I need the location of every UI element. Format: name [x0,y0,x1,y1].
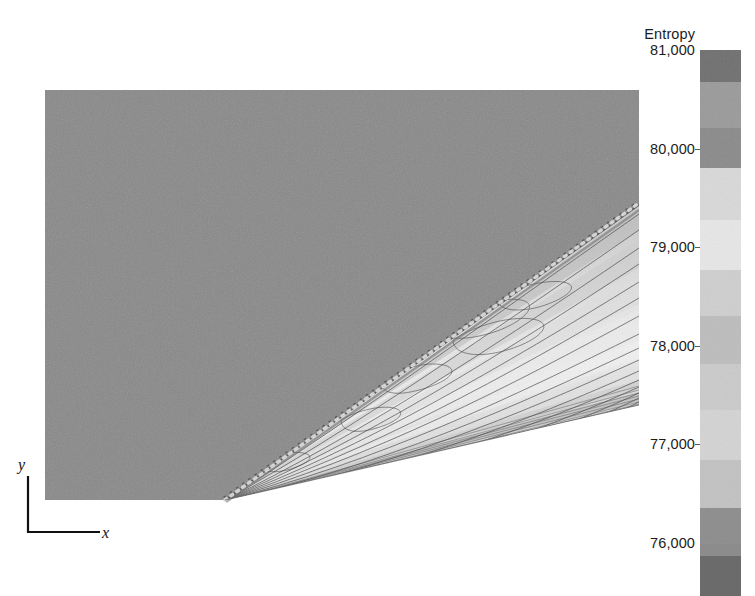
colorbar-band [700,82,741,128]
colorbar-tick-label: 81,000 [609,42,695,58]
colorbar-band [700,50,741,82]
colorbar-band [700,168,741,220]
colorbar-band [700,220,741,270]
colorbar-tick [695,247,700,248]
colorbar-tick [695,444,700,445]
colorbar-band [700,270,741,316]
colorbar-band [700,316,741,364]
colorbar-tick-label: 80,000 [609,141,695,157]
axis-indicator: y x [8,448,128,558]
colorbar-band [700,460,741,508]
colorbar-band [700,128,741,168]
colorbar-tick-label: 77,000 [609,436,695,452]
colorbar-band [700,556,741,596]
axis-label-x: x [102,524,109,542]
colorbar-band [700,410,741,460]
colorbar-tick [695,346,700,347]
colorbar-band [700,508,741,556]
axis-label-y: y [18,456,25,474]
colorbar-tick-label: 76,000 [609,535,695,551]
colorbar-band [700,364,741,410]
axis-indicator-svg [8,448,128,558]
contour-plot-area [45,90,639,509]
colorbar-tick [695,149,700,150]
contour-field-svg [45,90,639,509]
colorbar-title: Entropy [609,26,695,42]
colorbar-tick-label: 79,000 [609,239,695,255]
colorbar[interactable] [700,50,741,544]
colorbar-tick-label: 78,000 [609,338,695,354]
